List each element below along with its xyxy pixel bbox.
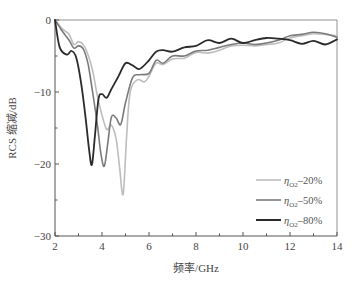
series-lines: [55, 20, 337, 195]
y-tick-label: −10: [34, 86, 52, 98]
x-tick-label: 12: [285, 240, 296, 252]
x-tick-label: 6: [146, 240, 152, 252]
legend-item: ηO2–80%: [256, 215, 323, 229]
x-tick-label: 8: [193, 240, 199, 252]
y-tick-label: 0: [46, 14, 52, 26]
x-tick-label: 10: [238, 240, 250, 252]
y-tick-label: −20: [34, 158, 52, 170]
y-axis-title: RCS 缩减/dB: [6, 97, 18, 158]
x-tick-label: 14: [332, 240, 344, 252]
legend-label: ηO2–80%: [284, 215, 323, 229]
x-tick-label: 2: [52, 240, 58, 252]
x-axis-title: 频率/GHz: [173, 261, 219, 274]
x-ticks: 2468101214: [52, 232, 343, 252]
rcs-reduction-chart: 2468101214 0−10−20−30 ηO2–20%ηO2–50%ηO2–…: [0, 0, 357, 286]
y-tick-label: −30: [34, 230, 52, 242]
legend-item: ηO2–20%: [256, 175, 323, 189]
legend-label: ηO2–20%: [284, 175, 323, 189]
x-tick-label: 4: [99, 240, 105, 252]
legend: ηO2–20%ηO2–50%ηO2–80%: [256, 175, 323, 229]
legend-item: ηO2–50%: [256, 195, 323, 209]
legend-label: ηO2–50%: [284, 195, 323, 209]
